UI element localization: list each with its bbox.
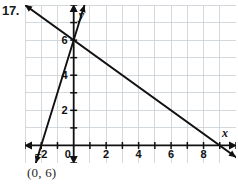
x-axis-label: x bbox=[221, 126, 228, 140]
y-axis-label: y bbox=[77, 8, 85, 22]
x-tick-label: 4 bbox=[136, 148, 143, 160]
problem-number: 17. bbox=[2, 3, 19, 18]
x-tick-label: 6 bbox=[168, 148, 174, 160]
x-tick-label: 0 bbox=[65, 148, 71, 160]
x-tick-label: 2 bbox=[103, 148, 109, 160]
y-tick-label: 2 bbox=[62, 104, 68, 116]
x-tick-label: 8 bbox=[200, 148, 206, 160]
worksheet-page: 17. –202468246 x y (0, 6) bbox=[0, 0, 238, 187]
coordinate-graph: –202468246 x y bbox=[25, 5, 236, 163]
graph-svg: –202468246 x y bbox=[25, 5, 236, 163]
answer-text: (0, 6) bbox=[27, 165, 56, 181]
